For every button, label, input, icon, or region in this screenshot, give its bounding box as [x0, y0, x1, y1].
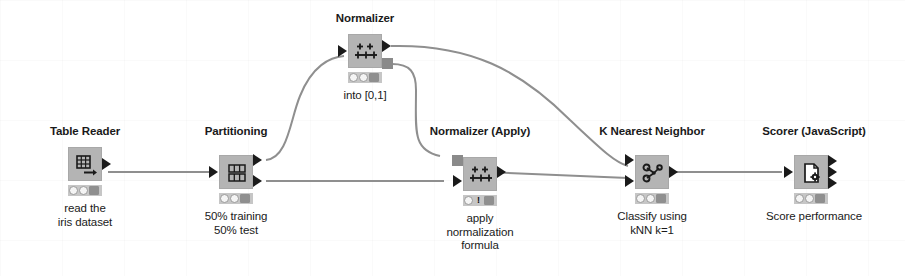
edge-normalizer-apply-to-knn — [486, 172, 628, 178]
status-bar-normalizer-apply: ! — [463, 195, 497, 206]
port-out-partitioning-test[interactable] — [253, 175, 262, 187]
status-lamp-running — [230, 194, 239, 203]
port-out-knn[interactable] — [669, 166, 678, 178]
port-in-normalizer-apply-data[interactable] — [453, 175, 462, 187]
status-lamp-executed — [484, 196, 494, 205]
status-lamp-idle — [795, 194, 804, 203]
port-in-scorer[interactable] — [784, 166, 793, 178]
workflow-canvas[interactable]: Table Reader read the iris dataset — [0, 0, 905, 276]
node-body-scorer-javascript[interactable] — [794, 155, 828, 189]
status-lamp-running — [805, 194, 814, 203]
node-description-scorer-javascript: Score performance — [766, 210, 862, 224]
port-out-scorer-3[interactable] — [828, 177, 837, 189]
node-title-table-reader: Table Reader — [50, 125, 120, 137]
status-bar-partitioning — [219, 193, 253, 204]
port-in-knn-train[interactable] — [625, 154, 634, 166]
status-lamp-idle — [464, 196, 473, 205]
node-title-k-nearest-neighbor: K Nearest Neighbor — [599, 125, 705, 137]
graph-nodes-icon — [636, 156, 670, 190]
port-out-normalizer-model[interactable] — [382, 58, 393, 69]
node-body-normalizer[interactable] — [348, 34, 382, 68]
node-description-table-reader: read the iris dataset — [58, 202, 112, 229]
node-body-partitioning[interactable] — [219, 155, 253, 189]
status-lamp-running — [359, 73, 368, 82]
status-lamp-executed — [89, 186, 99, 195]
status-lamp-executed — [815, 194, 825, 203]
status-lamp-executed — [369, 73, 379, 82]
port-in-knn-test[interactable] — [625, 175, 634, 187]
status-lamp-executed — [656, 194, 666, 203]
status-bar-table-reader — [68, 185, 102, 196]
node-title-normalizer-apply: Normalizer (Apply) — [430, 125, 530, 137]
port-out-table-reader[interactable] — [102, 158, 111, 170]
status-lamp-idle — [349, 73, 358, 82]
normalizer-axis-icon — [349, 35, 383, 69]
status-lamp-running — [646, 194, 655, 203]
status-lamp-running — [79, 186, 88, 195]
port-in-normalizer[interactable] — [338, 45, 347, 57]
node-title-partitioning: Partitioning — [205, 125, 268, 137]
port-in-normalizer-apply-model[interactable] — [452, 155, 463, 166]
node-description-normalizer-apply: apply normalization formula — [446, 212, 513, 253]
node-annotation-normalizer: into [0,1] — [343, 89, 386, 101]
status-warning-icon: ! — [474, 196, 483, 205]
node-body-normalizer-apply[interactable] — [463, 157, 497, 191]
status-lamp-executed — [240, 194, 250, 203]
table-grid-arrow-icon — [69, 148, 103, 182]
port-out-partitioning-train[interactable] — [253, 154, 262, 166]
partition-rows-icon — [220, 156, 254, 190]
status-bar-scorer-javascript — [794, 193, 828, 204]
node-title-normalizer: Normalizer — [336, 12, 394, 24]
edge-partitioning-to-normalizer — [266, 56, 344, 160]
node-description-partitioning: 50% training 50% test — [205, 210, 268, 237]
status-lamp-idle — [636, 194, 645, 203]
node-body-table-reader[interactable] — [68, 147, 102, 181]
status-lamp-idle — [69, 186, 78, 195]
port-out-normalizer-data[interactable] — [382, 40, 391, 52]
status-lamp-idle — [220, 194, 229, 203]
node-description-k-nearest-neighbor: Classify using kNN k=1 — [617, 210, 687, 237]
document-gear-icon — [795, 156, 829, 190]
edge-normalizer-to-knn — [391, 46, 628, 166]
status-bar-normalizer — [348, 72, 382, 83]
node-title-scorer-javascript: Scorer (JavaScript) — [762, 125, 866, 137]
edge-normalizer-model-to-apply — [392, 64, 440, 156]
port-out-normalizer-apply[interactable] — [497, 166, 506, 178]
port-in-partitioning[interactable] — [209, 166, 218, 178]
status-bar-k-nearest-neighbor — [635, 193, 669, 204]
node-body-k-nearest-neighbor[interactable] — [635, 155, 669, 189]
normalizer-axis-icon — [464, 158, 498, 192]
